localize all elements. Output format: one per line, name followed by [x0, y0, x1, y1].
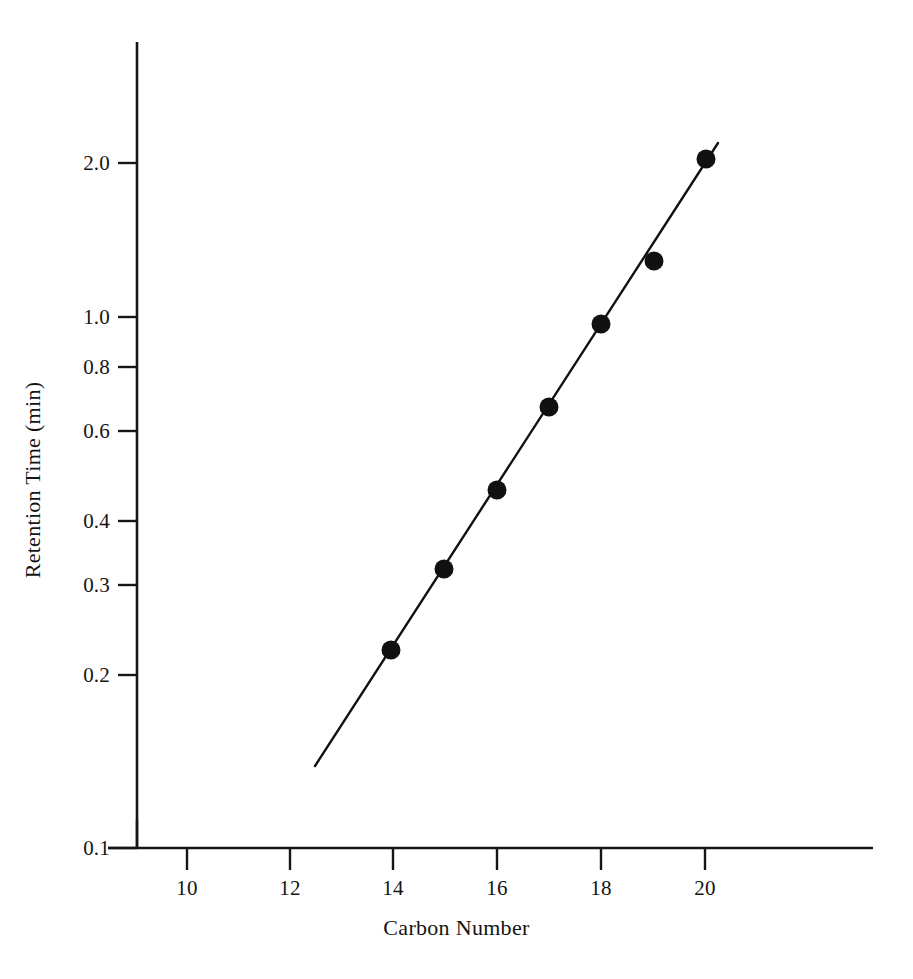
- x-tick-label-14: 14: [363, 876, 423, 901]
- data-point: [645, 252, 664, 271]
- data-point: [488, 481, 507, 500]
- x-tick-label-12: 12: [260, 876, 320, 901]
- data-point: [592, 315, 611, 334]
- y-axis-title: Retention Time (min): [20, 250, 46, 710]
- x-axis-title: Carbon Number: [0, 915, 913, 941]
- data-point: [382, 641, 401, 660]
- retention-time-vs-carbon-number-plot: [0, 0, 913, 979]
- x-axis-ticks: [137, 820, 705, 870]
- chart-figure: 2.0 1.0 0.8 0.6 0.4 0.3 0.2 0.1 10 12 14…: [0, 0, 913, 979]
- data-point: [435, 560, 454, 579]
- y-axis-ticks: [108, 163, 137, 848]
- data-point: [540, 398, 559, 417]
- y-axis-title-container: Retention Time (min): [0, 0, 60, 979]
- x-tick-label-16: 16: [467, 876, 527, 901]
- trend-line: [315, 143, 718, 766]
- x-tick-label-10: 10: [157, 876, 217, 901]
- x-tick-label-20: 20: [675, 876, 735, 901]
- x-tick-label-18: 18: [571, 876, 631, 901]
- data-point: [697, 150, 716, 169]
